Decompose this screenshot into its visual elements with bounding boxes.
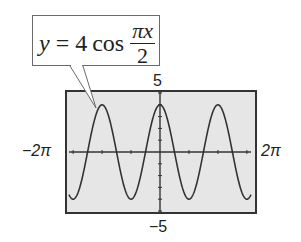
x-min-label: −2π xyxy=(22,142,51,160)
y-min-label: −5 xyxy=(149,218,167,236)
y-max-label: 5 xyxy=(153,72,162,90)
callout-pointer xyxy=(70,66,96,108)
chart-svg xyxy=(0,0,301,242)
x-max-label: 2π xyxy=(261,142,281,160)
axes xyxy=(69,92,251,212)
